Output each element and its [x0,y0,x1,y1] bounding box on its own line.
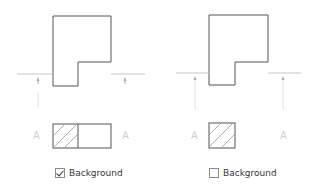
l-shape-part [209,15,268,85]
background-checkbox-left[interactable]: Background [55,168,123,178]
checkbox-checked-icon[interactable] [55,168,65,178]
section-label-a-right: A [122,130,129,141]
l-shape-part [53,16,111,86]
checkbox-label: Background [69,168,123,178]
arrow-icon [124,77,127,81]
arrow-icon [194,76,197,80]
hatch-pattern [209,123,235,148]
section-label-a-right: A [280,130,287,141]
panel-left [17,16,145,148]
background-checkbox-right[interactable]: Background [209,168,277,178]
hatch-pattern [53,124,78,148]
section-label-a-left: A [33,130,40,141]
section-label-a-left: A [191,130,198,141]
arrow-icon [282,76,285,80]
section-view [209,123,235,148]
checkbox-label: Background [223,168,277,178]
panel-right [176,15,301,148]
checkbox-unchecked-icon[interactable] [209,168,219,178]
arrow-icon [37,77,40,81]
section-view-diagram [0,0,317,193]
